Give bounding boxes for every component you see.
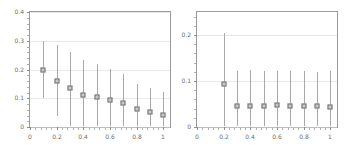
y-tick-minor (194, 118, 196, 119)
y-tick-minor (27, 75, 29, 76)
data-point-marker (68, 85, 73, 90)
error-bar (250, 70, 251, 126)
gridline-horizontal (197, 81, 337, 82)
y-tick-minor (27, 93, 29, 94)
data-point-marker (235, 104, 240, 109)
error-bar (137, 84, 138, 127)
x-tick-major (163, 127, 164, 130)
figure-canvas: 00.10.20.30.400.20.40.60.81 00.10.200.20… (0, 0, 351, 152)
error-bar (317, 72, 318, 126)
chart-panel-right: 00.10.200.20.40.60.81 (176, 0, 351, 152)
y-tick-minor (27, 116, 29, 117)
x-tick-minor (314, 128, 315, 130)
x-tick-minor (272, 128, 273, 130)
error-bar (277, 71, 278, 126)
x-tick-minor (51, 128, 52, 130)
x-axis-tick-label: 0 (28, 133, 32, 141)
y-tick-minor (27, 81, 29, 82)
data-point-marker (148, 109, 153, 114)
x-axis-tick-label: 1 (328, 133, 332, 141)
data-point-marker (81, 92, 86, 97)
x-axis-tick-label: 0 (195, 133, 199, 141)
y-axis-tick-label: 0.3 (4, 37, 24, 45)
error-bar (304, 71, 305, 126)
x-tick-minor (261, 128, 262, 130)
x-tick-major (30, 127, 31, 130)
y-tick-major (27, 41, 30, 42)
data-point-marker (108, 97, 113, 102)
x-tick-major (224, 127, 225, 130)
x-tick-minor (293, 128, 294, 130)
error-bar (290, 71, 291, 126)
data-point-marker (55, 79, 60, 84)
y-axis-tick-label: 0.4 (4, 8, 24, 16)
x-tick-minor (320, 128, 321, 130)
y-tick-minor (194, 17, 196, 18)
error-bar (224, 33, 225, 126)
data-point-marker (121, 101, 126, 106)
x-tick-minor (256, 128, 257, 130)
plot-area-left: 00.10.20.30.400.20.40.60.81 (29, 11, 171, 128)
x-tick-minor (158, 128, 159, 130)
x-tick-minor (142, 128, 143, 130)
y-tick-minor (27, 87, 29, 88)
y-tick-minor (27, 110, 29, 111)
x-tick-major (110, 127, 111, 130)
x-axis-tick-label: 0.2 (219, 133, 229, 141)
x-tick-minor (202, 128, 203, 130)
data-point-marker (161, 112, 166, 117)
plot-area-right: 00.10.200.20.40.60.81 (196, 11, 338, 128)
x-axis-tick-label: 0.6 (272, 133, 282, 141)
x-axis-tick-label: 0.6 (105, 133, 115, 141)
data-point-marker (275, 103, 280, 108)
error-bar (150, 88, 151, 127)
x-tick-minor (99, 128, 100, 130)
data-point-marker (262, 103, 267, 108)
x-tick-minor (213, 128, 214, 130)
y-tick-minor (27, 64, 29, 65)
error-bar (330, 71, 331, 126)
gridline-horizontal (30, 12, 170, 13)
plot-inner-right: 00.10.200.20.40.60.81 (197, 12, 337, 127)
y-tick-minor (27, 52, 29, 53)
x-tick-major (197, 127, 198, 130)
x-tick-minor (35, 128, 36, 130)
x-tick-minor (41, 128, 42, 130)
gridline-horizontal (30, 70, 170, 71)
data-point-marker (222, 82, 227, 87)
x-tick-major (137, 127, 138, 130)
y-tick-major (27, 70, 30, 71)
x-tick-major (304, 127, 305, 130)
x-tick-minor (73, 128, 74, 130)
y-tick-minor (27, 29, 29, 30)
x-tick-minor (89, 128, 90, 130)
x-tick-minor (240, 128, 241, 130)
x-tick-major (330, 127, 331, 130)
x-tick-minor (46, 128, 47, 130)
y-tick-minor (194, 72, 196, 73)
x-axis-tick-label: 1 (161, 133, 165, 141)
y-tick-minor (194, 63, 196, 64)
x-tick-minor (282, 128, 283, 130)
y-tick-major (194, 35, 197, 36)
gridline-horizontal (197, 35, 337, 36)
error-bar (237, 71, 238, 126)
y-tick-minor (27, 24, 29, 25)
y-tick-major (27, 12, 30, 13)
x-tick-minor (208, 128, 209, 130)
plot-inner-left: 00.10.20.30.400.20.40.60.81 (30, 12, 170, 127)
x-tick-major (277, 127, 278, 130)
data-point-marker (288, 104, 293, 109)
data-point-marker (248, 104, 253, 109)
error-bar (163, 92, 164, 127)
y-axis-tick-label: 0 (171, 123, 191, 131)
x-tick-minor (288, 128, 289, 130)
y-tick-minor (27, 121, 29, 122)
x-tick-minor (309, 128, 310, 130)
x-axis-tick-label: 0.8 (299, 133, 309, 141)
x-tick-minor (126, 128, 127, 130)
data-point-marker (95, 95, 100, 100)
x-tick-minor (153, 128, 154, 130)
gridline-horizontal (30, 98, 170, 99)
x-tick-major (250, 127, 251, 130)
